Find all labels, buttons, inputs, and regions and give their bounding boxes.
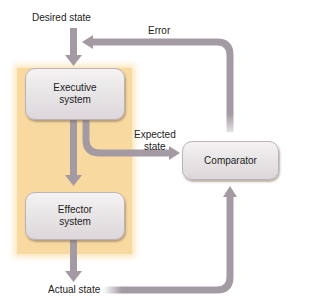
- executive-system-box: Executive system: [25, 68, 125, 120]
- desired-state-arrow: [65, 28, 82, 66]
- actual-state-label: Actual state: [48, 284, 100, 296]
- effector-system-box: Effector system: [25, 192, 125, 240]
- expected-state-label: Expected state: [134, 129, 176, 153]
- comparator-box: Comparator: [182, 141, 279, 180]
- error-label: Error: [148, 25, 170, 37]
- desired-state-label: Desired state: [32, 12, 91, 24]
